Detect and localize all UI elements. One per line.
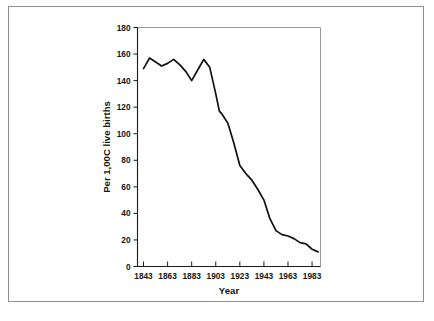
y-axis-tick-label: 60 [121,182,131,192]
y-axis-tick-label: 140 [117,76,131,86]
x-axis-tick-labels: 18431863188319031923194319631983 [134,271,321,281]
x-axis-tick-label: 1943 [255,271,274,281]
y-axis-tick-label: 20 [121,235,131,245]
figure-frame: 020406080100120140160180 184318631883190… [8,6,424,302]
x-axis-tick-label: 1963 [279,271,298,281]
x-axis-tick-label: 1843 [134,271,153,281]
x-axis-tick-label: 1863 [158,271,177,281]
data-series-line [144,58,319,252]
y-axis-tick-label: 180 [117,23,131,33]
figure-caption [10,310,424,319]
y-axis-ticks [134,28,138,267]
y-axis-title: Per 1,00C live births [101,101,112,193]
x-axis-ticks [144,262,313,267]
x-axis-tick-label: 1903 [207,271,226,281]
plot-area-frame [138,28,321,267]
y-axis-tick-label: 0 [126,262,131,272]
y-axis-tick-label: 80 [121,155,131,165]
y-axis-tick-label: 40 [121,208,131,218]
y-axis-tick-labels: 020406080100120140160180 [117,23,131,272]
x-axis-tick-label: 1883 [182,271,201,281]
x-axis-title: Year [219,285,240,296]
y-axis-tick-label: 160 [117,49,131,59]
infant-mortality-line-chart: 020406080100120140160180 184318631883190… [9,7,425,301]
x-axis-tick-label: 1923 [231,271,250,281]
x-axis-tick-label: 1983 [303,271,322,281]
y-axis-tick-label: 100 [117,129,131,139]
y-axis-tick-label: 120 [117,102,131,112]
